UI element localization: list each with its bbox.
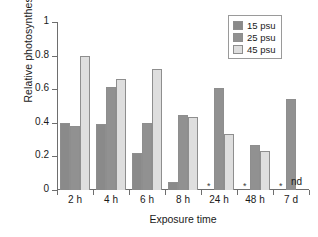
y-axis-tick-label: 0.8 <box>35 49 49 60</box>
bar <box>152 69 162 190</box>
bar <box>60 123 70 190</box>
bar <box>96 124 106 190</box>
legend-swatch-icon <box>233 45 243 54</box>
bar <box>116 79 126 190</box>
x-axis-tick-label: 2 h <box>57 194 93 205</box>
legend-item-label: 25 psu <box>247 32 276 43</box>
legend-item: 15 psu <box>233 19 276 31</box>
legend-item: 25 psu <box>233 31 276 43</box>
x-axis-tick-label: 48 h <box>237 194 273 205</box>
bar <box>142 123 152 190</box>
x-axis-tick-label: 24 h <box>201 194 237 205</box>
y-axis-tick-label: 0.6 <box>35 82 49 93</box>
bar-group <box>132 22 163 190</box>
bar <box>260 151 270 190</box>
y-axis-tick: 0.4 <box>52 123 57 124</box>
y-axis-tick-label: 1 <box>43 15 49 26</box>
legend-item-label: 15 psu <box>247 20 276 31</box>
chart-figure: Relative photosynthesis 00.20.40.60.81 *… <box>0 0 318 237</box>
x-axis-tick-label: 6 h <box>129 194 165 205</box>
y-axis-tick: 0.6 <box>52 89 57 90</box>
y-axis-line <box>57 22 58 190</box>
y-axis-tick: 0.2 <box>52 156 57 157</box>
legend-swatch-icon <box>233 21 243 30</box>
y-axis-tick: 1 <box>52 22 57 23</box>
zero-value-marker: * <box>240 183 250 189</box>
bar <box>214 88 224 190</box>
bar <box>70 126 80 190</box>
bar <box>188 117 198 190</box>
y-axis-tick: 0.8 <box>52 56 57 57</box>
bar <box>80 56 90 190</box>
x-axis-tick-label: 4 h <box>93 194 129 205</box>
legend-item-label: 45 psu <box>247 44 276 55</box>
bar-group <box>60 22 91 190</box>
x-axis-title: Exposure time <box>57 213 309 225</box>
x-axis-tick-label: 7 d <box>273 194 309 205</box>
legend-swatch-icon <box>233 33 243 42</box>
bar <box>106 87 116 190</box>
bar <box>250 145 260 190</box>
zero-value-marker: * <box>204 183 214 189</box>
bar-group <box>96 22 127 190</box>
x-axis-tick <box>309 190 310 195</box>
bar <box>178 115 188 190</box>
bar <box>132 153 142 190</box>
bar-group <box>168 22 199 190</box>
y-axis-title: Relative photosynthesis <box>22 0 34 136</box>
y-axis-tick-label: 0.2 <box>35 149 49 160</box>
y-axis-tick-label: 0.4 <box>35 116 49 127</box>
x-axis-tick-label: 8 h <box>165 194 201 205</box>
zero-value-marker: * <box>276 183 286 189</box>
legend-item: 45 psu <box>233 43 276 55</box>
legend: 15 psu 25 psu 45 psu <box>228 15 282 59</box>
bar <box>168 182 178 190</box>
nd-annotation: nd <box>291 176 302 187</box>
bar <box>224 134 234 190</box>
y-axis-tick-label: 0 <box>43 183 49 194</box>
